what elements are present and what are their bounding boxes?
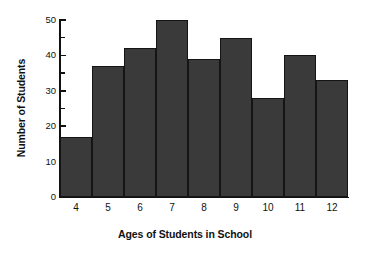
bar-age-4: [60, 137, 92, 197]
bar-age-12: [316, 80, 348, 197]
bar-age-10: [252, 98, 284, 197]
x-tick-label-12: 12: [312, 202, 352, 214]
y-tick-label-40: 40: [16, 50, 56, 60]
y-tick-label-30: 30: [16, 86, 56, 96]
bar-age-7: [156, 20, 188, 197]
bar-age-5: [92, 66, 124, 197]
y-tick-label-0: 0: [16, 192, 56, 202]
plot-area: [60, 20, 348, 197]
histogram-figure: Number of Students 01020304050 456789101…: [0, 0, 370, 254]
x-axis-title: Ages of Students in School: [0, 228, 370, 241]
bar-age-9: [220, 38, 252, 197]
x-axis-tick-labels: 456789101112: [60, 202, 348, 218]
y-tick-label-20: 20: [16, 121, 56, 131]
y-axis-tick-labels: 01020304050: [12, 0, 56, 254]
y-tick-label-50: 50: [16, 15, 56, 25]
bar-age-8: [188, 59, 220, 197]
bar-age-6: [124, 48, 156, 197]
y-tick-label-10: 10: [16, 157, 56, 167]
bar-age-11: [284, 55, 316, 197]
